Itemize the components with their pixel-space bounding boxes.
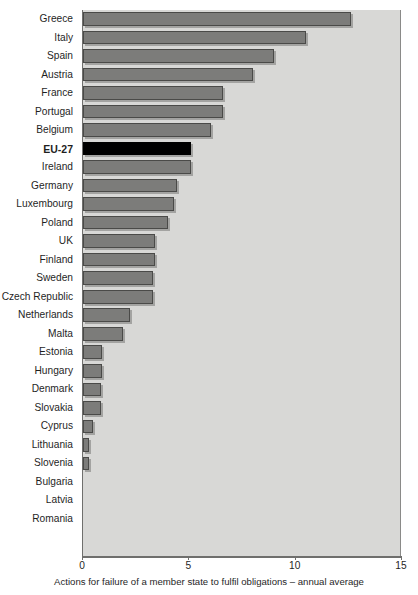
bar [83,253,155,267]
category-label: France [0,84,78,103]
category-label: Ireland [0,158,78,177]
bar [83,271,153,285]
bar [83,420,93,434]
category-label: Poland [0,214,78,233]
category-label: Italy [0,29,78,48]
x-axis-line [82,556,401,558]
bar-row [83,10,400,29]
bar [83,12,351,26]
bar-row [83,417,400,436]
bar [83,234,155,248]
bar-row [83,103,400,122]
bar-row [83,177,400,196]
bar-row [83,325,400,344]
category-label: Belgium [0,121,78,140]
bar [83,457,89,471]
bar-row [83,380,400,399]
bar-row [83,436,400,455]
category-label: Cyprus [0,417,78,436]
bar-row [83,232,400,251]
bar-row [83,399,400,418]
x-axis-title: Actions for failure of a member state to… [0,576,418,587]
bar-chart: GreeceItalySpainAustriaFrancePortugalBel… [0,0,418,595]
category-label: Estonia [0,343,78,362]
bar-rows [83,10,400,556]
bar [83,327,123,341]
bar [83,308,130,322]
bar [83,142,191,156]
bar-row [83,121,400,140]
category-label: Bulgaria [0,473,78,492]
bar-row [83,343,400,362]
category-label: Luxembourg [0,195,78,214]
bar [83,31,306,45]
category-label: Lithuania [0,436,78,455]
category-label: Slovakia [0,399,78,418]
x-tick-label: 10 [289,560,300,571]
category-label: Finland [0,251,78,270]
bar-row [83,306,400,325]
category-label: Germany [0,177,78,196]
bar [83,160,191,174]
bar-row [83,66,400,85]
plot-area [82,10,401,556]
x-tick-label: 0 [79,560,85,571]
category-label: Romania [0,510,78,529]
bar [83,401,101,415]
bar [83,364,102,378]
bar-row [83,510,400,529]
bar-row [83,269,400,288]
x-tick-label: 5 [185,560,191,571]
bar-row [83,47,400,66]
bar [83,123,211,137]
category-label: Portugal [0,103,78,122]
bar-row [83,454,400,473]
bar-row [83,84,400,103]
bar [83,179,177,193]
bar-row [83,158,400,177]
bar-row [83,251,400,270]
category-label: Hungary [0,362,78,381]
bar-row [83,362,400,381]
category-label: Latvia [0,491,78,510]
category-label: Denmark [0,380,78,399]
bar [83,197,174,211]
bar [83,86,223,100]
bar [83,345,102,359]
bar [83,105,223,119]
bar-row [83,29,400,48]
bar-row [83,195,400,214]
category-label: Malta [0,325,78,344]
bar [83,216,168,230]
category-label: Netherlands [0,306,78,325]
category-label: Greece [0,10,78,29]
bar-row [83,140,400,159]
bar [83,49,274,63]
bar [83,438,89,452]
category-label: Sweden [0,269,78,288]
category-label: UK [0,232,78,251]
category-label: EU-27 [0,140,78,159]
bar [83,290,153,304]
bar-row [83,288,400,307]
bar [83,383,101,397]
category-label: Austria [0,66,78,85]
category-axis-labels: GreeceItalySpainAustriaFrancePortugalBel… [0,10,78,556]
category-label: Slovenia [0,454,78,473]
bar-row [83,214,400,233]
x-tick-label: 15 [395,560,406,571]
category-label: Spain [0,47,78,66]
bar-row [83,473,400,492]
bar-row [83,491,400,510]
category-label: Czech Republic [0,288,78,307]
bar [83,68,253,82]
